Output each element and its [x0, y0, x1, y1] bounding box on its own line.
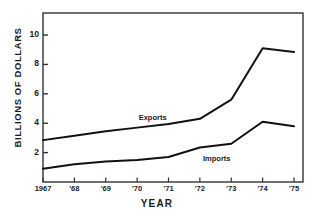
series-line-imports	[43, 122, 294, 169]
series-label-exports: Exports	[139, 113, 167, 122]
series-label-imports: Imports	[203, 154, 231, 163]
x-axis-tick-label: '69	[89, 184, 123, 193]
x-axis-tick-label: '74	[246, 184, 280, 193]
x-axis-tick-label: '73	[214, 184, 248, 193]
x-axis-tick-label: '71	[152, 184, 186, 193]
x-axis-tick-label: '70	[120, 184, 154, 193]
line-chart: BILLIONS OF DOLLARS 246810 1967'68'69'70…	[0, 0, 314, 220]
x-axis-tick-label: '68	[57, 184, 91, 193]
x-axis-tick-label: '72	[183, 184, 217, 193]
x-axis-tick-label: 1967	[26, 184, 60, 193]
x-axis-tick-label: '75	[277, 184, 311, 193]
x-axis-title: YEAR	[0, 198, 314, 209]
